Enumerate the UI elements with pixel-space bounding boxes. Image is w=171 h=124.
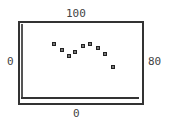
data-point	[81, 44, 85, 48]
data-point	[111, 65, 115, 69]
data-point	[60, 48, 64, 52]
plot-area	[0, 0, 171, 124]
data-point	[67, 54, 71, 58]
data-point	[103, 52, 107, 56]
data-point	[52, 42, 56, 46]
data-point	[96, 46, 100, 50]
data-point	[73, 50, 77, 54]
data-point	[88, 42, 92, 46]
